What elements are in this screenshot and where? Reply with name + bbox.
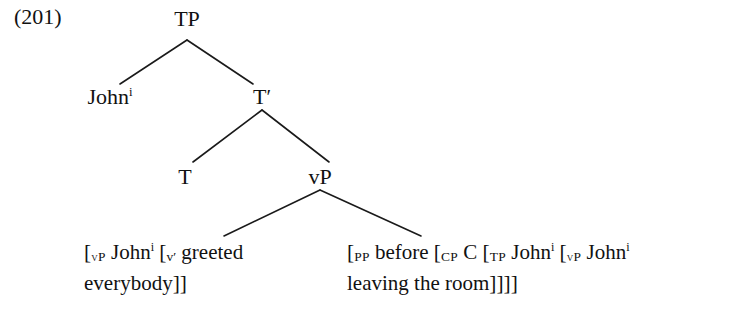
example-number: (201) [14,6,62,28]
tree-node-tbar: T′ [253,86,271,108]
edge-tbar-t [193,110,262,162]
leaf-right-label-1: PP [354,249,370,264]
tree-node-john: Johni [87,86,132,108]
leaf-right-word-3: John [511,240,551,264]
leaf-right-line2: leaving the room]]]] [347,269,630,297]
tree-node-vp-label: vP [308,164,331,189]
leaf-left-close-brackets: ]] [173,271,187,295]
edge-vp-leaf-right [320,190,421,236]
tree-node-tbar-prime: ′ [266,85,271,109]
leaf-right-open-bracket-4: [ [560,240,567,264]
leaf-left-line1: [vP Johni [v′ greeted [84,240,243,264]
leaf-right-word-5: leaving the room [347,271,489,295]
leaf-right-index-4: i [626,240,629,254]
leaf-text-left: [vP Johni [v′ greeted everybody]] [84,238,243,297]
leaf-left-index-1: i [151,240,154,254]
leaf-right-open-bracket-3: [ [483,240,490,264]
tree-node-t: T [178,166,191,188]
leaf-right-word-4: John [587,240,627,264]
leaf-right-label-3: TP [490,249,506,264]
leaf-left-line2: everybody]] [84,269,243,297]
leaf-right-label-2: CP [441,249,458,264]
leaf-left-word-3: everybody [84,271,173,295]
leaf-right-label-4: vP [567,249,582,264]
tree-node-tp-label: TP [174,6,200,31]
edge-tp-john [120,40,187,84]
leaf-left-label-1: vP [91,249,106,264]
edge-tp-tbar [187,40,253,84]
tree-node-john-label: John [87,84,129,109]
tree-node-john-index: i [129,85,133,99]
tree-node-tp: TP [174,8,200,30]
tree-node-vp: vP [308,166,331,188]
leaf-left-label-2: v′ [166,249,176,264]
leaf-left-word-1: John [111,240,151,264]
leaf-right-close-brackets: ]]]] [489,271,518,295]
leaf-right-open-bracket-2: [ [434,240,441,264]
tree-node-tbar-label: T [253,84,266,109]
edge-tbar-vp [262,110,329,162]
tree-node-t-label: T [178,164,191,189]
syntax-tree-figure: (201) TP Johni T′ T vP [vP Johni [v′ gre… [0,0,746,314]
edge-vp-leaf-left [224,190,320,236]
leaf-right-line1: [PP before [CP C [TP Johni [vP Johni [347,240,630,264]
leaf-right-word-2: C [463,240,477,264]
leaf-right-index-3: i [551,240,554,254]
leaf-text-right: [PP before [CP C [TP Johni [vP Johni lea… [347,238,630,297]
leaf-right-word-1: before [375,240,429,264]
leaf-left-word-2: greeted [181,240,243,264]
